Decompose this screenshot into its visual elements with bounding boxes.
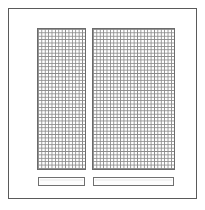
drawing-canvas: [0, 0, 205, 210]
left-slat-bar: [38, 177, 85, 186]
right-slat-bar: [93, 177, 174, 186]
left-mesh-panel: [37, 28, 86, 170]
outer-frame: [8, 8, 197, 199]
right-mesh-panel: [92, 28, 175, 170]
